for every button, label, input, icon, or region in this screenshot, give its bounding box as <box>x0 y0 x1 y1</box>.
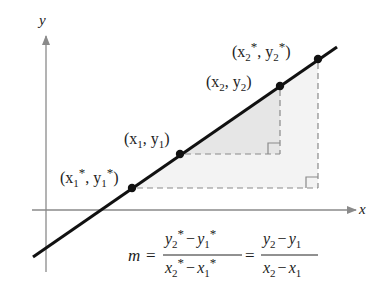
slope-formula: m = y2*−y1* x2*−x1* = y2−y1 x2−x1 <box>128 226 318 279</box>
point-x1-y1 <box>176 150 184 158</box>
formula-equals-2: = <box>245 246 255 265</box>
slope-diagram: x y (x1*, y1*) (x1, y1) (x2, y2) (x2*, y… <box>0 0 382 296</box>
point-x1star-y1star <box>128 184 136 192</box>
x-axis-label: x <box>358 201 366 217</box>
formula-equals-1: = <box>146 246 156 265</box>
y-axis-label: y <box>37 12 46 28</box>
frac1-denominator: x2*−x1* <box>164 255 216 279</box>
formula-m: m <box>128 246 140 265</box>
label-x1star-y1star: (x1*, y1*) <box>60 165 119 189</box>
frac2-numerator: y2−y1 <box>261 230 301 250</box>
label-x2-y2: (x2, y2) <box>206 73 252 93</box>
label-x2star-y2star: (x2*, y2*) <box>232 39 291 63</box>
point-x2star-y2star <box>314 55 322 63</box>
frac2-denominator: x2−x1 <box>262 259 301 279</box>
point-x2-y2 <box>276 82 284 90</box>
label-x1-y1: (x1, y1) <box>124 130 170 150</box>
frac1-numerator: y2*−y1* <box>163 226 216 250</box>
